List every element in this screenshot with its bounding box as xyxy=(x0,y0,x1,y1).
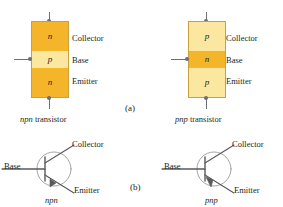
transistor-figure: n p n Collector Base Emitter npn transis… xyxy=(0,0,283,207)
pnp-base-terminal-dot xyxy=(185,57,189,61)
npn-symbol-emitter-label: Emitter xyxy=(74,186,100,195)
pnp-block-caption-type: pnp xyxy=(175,114,188,124)
npn-collector-label: Collector xyxy=(72,34,104,43)
pnp-block-caption-word: transistor xyxy=(188,114,222,124)
pnp-emitter-label: Emitter xyxy=(226,77,252,86)
pnp-layer-base-dopant: n xyxy=(205,55,210,64)
npn-layer-emitter: n xyxy=(32,68,68,97)
npn-symbol-collector-label: Collector xyxy=(72,140,104,149)
npn-block-caption: npn transistor xyxy=(20,115,67,124)
npn-emitter-label: Emitter xyxy=(72,77,98,86)
pnp-layer-base: n xyxy=(189,51,225,68)
pnp-base-label: Base xyxy=(226,56,243,65)
pnp-block-caption: pnp transistor xyxy=(175,115,222,124)
cropped-header-text xyxy=(0,0,283,9)
npn-block-caption-type: npn xyxy=(20,114,33,124)
npn-base-terminal-dot xyxy=(28,57,32,61)
pnp-collector-label: Collector xyxy=(226,34,258,43)
npn-layer-base: p xyxy=(32,51,68,68)
npn-layer-collector: n xyxy=(32,22,68,51)
npn-symbol-base-label: Base xyxy=(4,162,21,171)
npn-layer-base-dopant: p xyxy=(48,55,53,64)
npn-emitter-lead xyxy=(49,98,50,109)
pnp-symbol-name: pnp xyxy=(205,196,218,205)
part-a-label: (a) xyxy=(125,104,135,113)
npn-block-caption-word: transistor xyxy=(33,114,67,124)
npn-layer-collector-dopant: n xyxy=(48,32,53,41)
pnp-layer-emitter-dopant: p xyxy=(205,78,210,87)
pnp-symbol-emitter-label: Emitter xyxy=(234,186,260,195)
pnp-block: p n p xyxy=(188,21,226,98)
npn-layer-emitter-dopant: n xyxy=(48,78,53,87)
npn-symbol-name: npn xyxy=(45,196,58,205)
npn-block: n p n xyxy=(31,21,69,98)
pnp-layer-collector: p xyxy=(189,22,225,51)
pnp-symbol-base-label: Base xyxy=(164,162,181,171)
pnp-emitter-lead xyxy=(206,98,207,109)
npn-base-label: Base xyxy=(72,56,89,65)
part-b-label: (b) xyxy=(130,183,141,192)
pnp-layer-emitter: p xyxy=(189,68,225,97)
pnp-layer-collector-dopant: p xyxy=(205,32,210,41)
pnp-symbol-collector-label: Collector xyxy=(232,140,264,149)
